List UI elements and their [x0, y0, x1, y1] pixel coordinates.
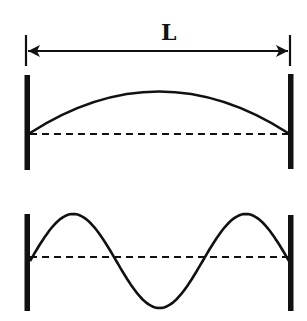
fundamental-panel — [25, 74, 294, 170]
fixed-end-right — [288, 74, 294, 169]
fixed-end-left — [25, 214, 31, 311]
fundamental-wave — [30, 92, 288, 134]
third-harmonic-panel — [25, 214, 294, 311]
fixed-end-left — [25, 75, 31, 170]
standing-wave-diagram: L — [0, 0, 307, 321]
length-label: L — [161, 19, 176, 45]
fixed-end-right — [288, 215, 294, 311]
third-harmonic-wave — [30, 214, 289, 308]
length-dimension: L — [26, 19, 290, 66]
